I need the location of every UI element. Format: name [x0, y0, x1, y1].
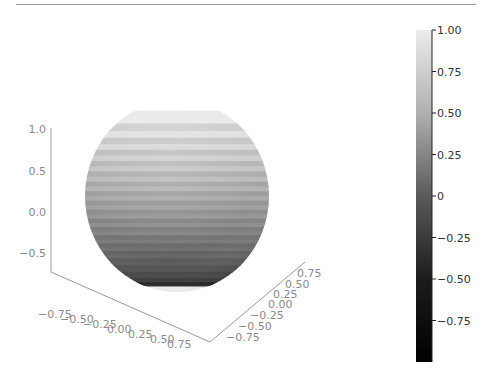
z-axis: 1.0 0.5 0.0 −0.5	[19, 123, 51, 272]
y-tick: 0.75	[297, 267, 322, 280]
x-tick: 0.75	[167, 338, 192, 351]
colorbar-tick: 0.50	[437, 107, 462, 120]
colorbar: 1.000.750.500.250−0.25−0.50−0.75	[416, 24, 471, 362]
colorbar-tick: 1.00	[437, 24, 462, 37]
colorbar-tick: 0.75	[437, 66, 462, 79]
chart-canvas: 1.0 0.5 0.0 −0.5 −0.75 −0.50 −0.25 0.00 …	[0, 0, 490, 375]
colorbar-tick: −0.75	[437, 315, 471, 328]
z-tick: −0.5	[19, 247, 46, 260]
z-tick: 0.5	[29, 165, 47, 178]
x-tick: 0.25	[128, 328, 153, 341]
z-tick: 1.0	[29, 123, 47, 136]
z-tick: 0.0	[29, 206, 47, 219]
colorbar-tick: 0	[437, 190, 444, 203]
colorbar-tick: −0.25	[437, 232, 471, 245]
colorbar-tick: 0.25	[437, 149, 462, 162]
sphere-surface	[0, 100, 377, 292]
colorbar-tick: −0.50	[437, 273, 471, 286]
